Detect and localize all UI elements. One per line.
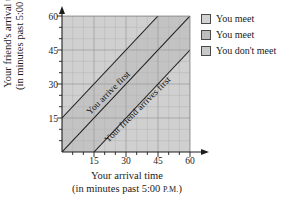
meeting-probability-figure: Your friend's arrival time (in minutes p… bbox=[0, 0, 301, 206]
x-axis-arrowhead bbox=[201, 149, 209, 155]
legend: You meet You meet You don't meet bbox=[201, 13, 299, 61]
y-axis-title-line2: (in minutes past 5:00 P.M.) bbox=[14, 0, 26, 90]
y-axis-ticks bbox=[57, 16, 62, 141]
y-axis-arrowhead bbox=[59, 6, 65, 14]
x-axis-title-line1: Your arrival time bbox=[44, 170, 210, 183]
x-axis-ticks bbox=[73, 152, 190, 157]
x-axis-title-line2-smallcaps: P.M. bbox=[163, 185, 178, 194]
legend-swatch-2 bbox=[201, 46, 211, 56]
x-axis-title-line2-pre: (in minutes past 5:00 bbox=[72, 183, 163, 194]
x-axis-title: Your arrival time (in minutes past 5:00 … bbox=[44, 170, 210, 195]
legend-item-1: You meet bbox=[201, 29, 299, 41]
x-axis-title-line2: (in minutes past 5:00 P.M.) bbox=[44, 183, 210, 196]
y-axis-title: Your friend's arrival time (in minutes p… bbox=[0, 0, 31, 105]
legend-swatch-0 bbox=[201, 14, 211, 24]
legend-label-2: You don't meet bbox=[216, 46, 276, 56]
plot-area: You arrive first Your friend arrives fir… bbox=[62, 16, 190, 152]
x-axis-title-line2-post: ) bbox=[178, 183, 182, 194]
y-axis-title-line2-pre: (in minutes past 5:00 bbox=[14, 0, 25, 90]
legend-item-0: You meet bbox=[201, 13, 299, 25]
legend-swatch-1 bbox=[201, 30, 211, 40]
plot-svg bbox=[52, 6, 212, 176]
legend-item-2: You don't meet bbox=[201, 45, 299, 57]
legend-label-1: You meet bbox=[216, 30, 254, 40]
legend-label-0: You meet bbox=[216, 14, 254, 24]
y-axis-title-line1: Your friend's arrival time bbox=[2, 0, 14, 88]
